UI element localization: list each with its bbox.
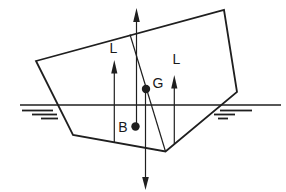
weight-force-arrow: [142, 89, 149, 190]
diagram-canvas: G B L L: [0, 0, 286, 192]
up-arrowhead-icon: [171, 75, 177, 89]
center-of-gravity-dot: [142, 85, 150, 93]
down-arrowhead-icon: [142, 177, 149, 190]
left-vertical-label: L: [110, 40, 118, 56]
up-arrowhead-icon: [133, 8, 140, 22]
center-of-buoyancy-label: B: [118, 119, 127, 135]
water-hatch-lines-right: [214, 111, 252, 119]
center-of-buoyancy-dot: [131, 122, 139, 130]
up-arrowhead-icon: [111, 60, 117, 74]
right-vertical-label: L: [173, 51, 181, 67]
ship-stability-figure: G B L L: [0, 0, 286, 192]
buoyancy-force-arrow: [133, 8, 140, 127]
vertical-reference-arrow-left: [111, 60, 117, 143]
vertical-reference-arrow-right: [171, 75, 177, 144]
ship-centerline: [130, 35, 166, 152]
center-of-gravity-label: G: [153, 75, 164, 91]
water-hatch-lines-left: [22, 111, 58, 119]
